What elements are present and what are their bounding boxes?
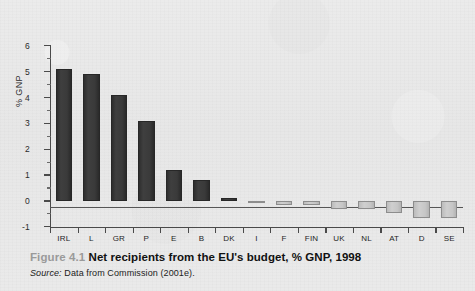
- x-axis-label-gr: GR: [105, 234, 133, 243]
- x-axis-label-b: B: [188, 234, 216, 243]
- x-axis-label-f: F: [270, 234, 298, 243]
- bar-dk: [221, 198, 238, 201]
- y-tick-major: [44, 45, 51, 46]
- x-tick: [133, 227, 134, 233]
- bar-b: [193, 180, 210, 201]
- bar-e: [166, 170, 183, 201]
- bar-f: [276, 201, 293, 205]
- x-axis-label-l: L: [78, 234, 106, 243]
- bar-i: [248, 201, 265, 203]
- bar-p: [138, 121, 155, 201]
- x-axis-label-uk: UK: [325, 234, 353, 243]
- bar-irl: [56, 69, 73, 201]
- bar-se: [441, 201, 458, 218]
- x-axis-label-irl: IRL: [50, 234, 78, 243]
- y-tick-minor: [47, 136, 52, 137]
- x-tick: [353, 227, 354, 233]
- y-tick-major: [44, 200, 51, 201]
- x-axis-label-e: E: [160, 234, 188, 243]
- x-tick: [435, 227, 436, 233]
- x-tick: [408, 227, 409, 233]
- y-tick-major: [44, 149, 51, 150]
- x-tick: [78, 227, 79, 233]
- x-tick: [463, 227, 464, 233]
- x-axis-label-d: D: [408, 234, 436, 243]
- x-tick: [243, 227, 244, 233]
- figure-title: Net recipients from the EU's budget, % G…: [89, 251, 362, 263]
- y-tick-major: [44, 97, 51, 98]
- y-axis-title: % GNP: [14, 75, 24, 107]
- x-axis-line: [50, 227, 463, 228]
- x-axis-label-dk: DK: [215, 234, 243, 243]
- x-tick: [270, 227, 271, 233]
- x-tick: [160, 227, 161, 233]
- y-tick-major: [44, 71, 51, 72]
- bar-gr: [111, 95, 128, 201]
- figure-source: Source: Data from Commission (2001e).: [30, 268, 195, 278]
- y-tick-minor: [47, 110, 52, 111]
- y-tick-minor: [47, 213, 52, 214]
- bar-fin: [303, 201, 320, 205]
- bar-at: [386, 201, 403, 213]
- y-tick-minor: [47, 187, 52, 188]
- x-axis-label-fin: FIN: [298, 234, 326, 243]
- x-tick: [188, 227, 189, 233]
- x-tick: [380, 227, 381, 233]
- bar-nl: [358, 201, 375, 210]
- x-tick: [50, 227, 51, 233]
- y-tick-minor: [47, 84, 52, 85]
- source-text: Data from Commission (2001e).: [64, 268, 194, 278]
- bar-l: [83, 74, 100, 201]
- x-axis-label-se: SE: [435, 234, 463, 243]
- x-tick: [105, 227, 106, 233]
- x-axis-label-nl: NL: [353, 234, 381, 243]
- x-tick: [298, 227, 299, 233]
- x-axis-label-p: P: [133, 234, 161, 243]
- bar-uk: [331, 201, 348, 210]
- y-tick-major: [44, 174, 51, 175]
- x-tick: [325, 227, 326, 233]
- bar-d: [413, 201, 430, 218]
- x-tick: [215, 227, 216, 233]
- figure-caption: Figure 4.1 Net recipients from the EU's …: [30, 250, 460, 264]
- y-tick-major: [44, 123, 51, 124]
- source-label: Source:: [30, 268, 62, 278]
- figure-number: Figure 4.1: [30, 251, 85, 263]
- x-axis-label-i: I: [243, 234, 271, 243]
- x-axis-label-at: AT: [380, 234, 408, 243]
- y-tick-minor: [47, 58, 52, 59]
- bar-chart: % GNP 6543210-1 IRLLGRPEBDKIFFINUKNLATDS…: [0, 0, 475, 245]
- y-tick-minor: [47, 162, 52, 163]
